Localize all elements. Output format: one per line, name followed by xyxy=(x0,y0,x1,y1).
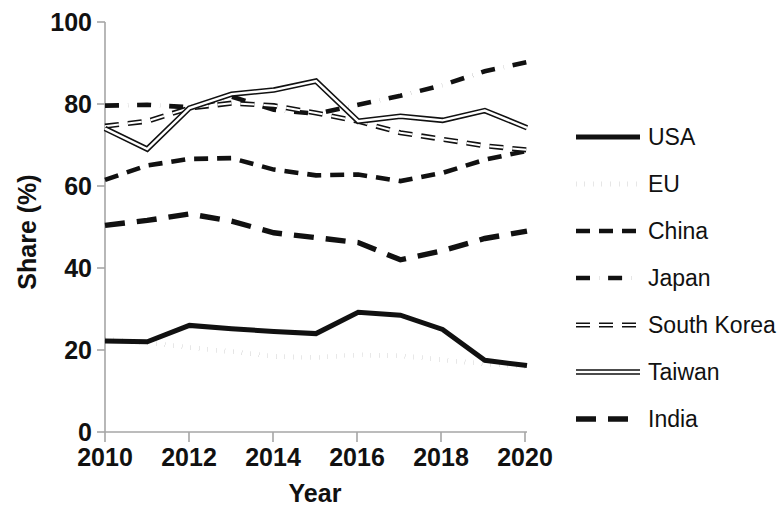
x-tick-label: 2016 xyxy=(329,443,385,471)
legend-label: EU xyxy=(648,171,680,197)
legend-label: Japan xyxy=(648,265,711,291)
legend-item-taiwan[interactable]: Taiwan xyxy=(576,359,720,385)
legend-item-usa[interactable]: USA xyxy=(576,124,696,150)
y-tick-label: 80 xyxy=(64,90,92,118)
y-axis-title: Share (%) xyxy=(13,174,41,289)
series-japan xyxy=(105,62,527,114)
x-tick-label: 2010 xyxy=(77,443,133,471)
x-tick-label: 2012 xyxy=(161,443,217,471)
series-line xyxy=(105,312,527,365)
series-layer xyxy=(105,62,527,366)
legend-item-china[interactable]: China xyxy=(576,218,708,244)
legend-label: South Korea xyxy=(648,312,776,338)
x-tick-label: 2018 xyxy=(413,443,469,471)
chart-legend: USAEUChinaJapanSouth KoreaTaiwanIndia xyxy=(576,124,776,432)
series-india xyxy=(105,214,527,260)
series-china xyxy=(105,151,527,181)
axis-lines xyxy=(97,22,527,442)
legend-label: India xyxy=(648,406,698,432)
chart-container: Share (%) Year 100 80 60 40 20 0 2010 20… xyxy=(0,0,778,509)
x-tick-label: 2020 xyxy=(497,443,553,471)
legend-item-japan[interactable]: Japan xyxy=(576,265,711,291)
y-tick-labels: 100 80 60 40 20 0 xyxy=(50,8,92,446)
series-line xyxy=(105,151,527,181)
series-line xyxy=(105,62,527,114)
legend-label: China xyxy=(648,218,708,244)
y-tick-label: 20 xyxy=(64,336,92,364)
legend-label: USA xyxy=(648,124,696,150)
y-tick-label: 60 xyxy=(64,172,92,200)
x-tick-labels: 2010 2012 2014 2016 2018 2020 xyxy=(77,443,553,471)
legend-item-eu[interactable]: EU xyxy=(576,171,680,197)
y-tick-label: 100 xyxy=(50,8,92,36)
y-tick-label: 0 xyxy=(78,418,92,446)
legend-label: Taiwan xyxy=(648,359,720,385)
legend-item-india[interactable]: India xyxy=(576,406,698,432)
y-axis-ticks xyxy=(97,22,105,432)
series-usa xyxy=(105,312,527,365)
x-axis-ticks xyxy=(105,432,525,442)
y-tick-label: 40 xyxy=(64,254,92,282)
line-chart-figure: Share (%) Year 100 80 60 40 20 0 2010 20… xyxy=(0,0,778,509)
x-tick-label: 2014 xyxy=(245,443,301,471)
x-axis-title: Year xyxy=(289,479,342,507)
legend-item-south-korea[interactable]: South Korea xyxy=(576,312,776,338)
series-line xyxy=(105,214,527,260)
